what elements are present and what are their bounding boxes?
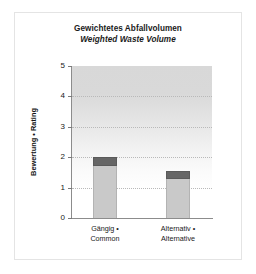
- x-tick-label-alternativ-alternative-line1: Alternativ •: [132, 224, 224, 234]
- x-tick-label-alternativ-alternative: Alternativ • Alternative: [132, 224, 224, 243]
- bar-alternativ-alternative[interactable]: [166, 171, 190, 218]
- x-tick-label-alternativ-alternative-line2: Alternative: [132, 234, 224, 244]
- y-tick-label-0: 0: [51, 214, 65, 222]
- y-tick-mark-1: [68, 188, 72, 189]
- gridline-3: [72, 127, 212, 128]
- bar-cap-alternativ-alternative: [166, 171, 190, 179]
- y-tick-label-3: 3: [51, 123, 65, 131]
- chart-subtitle: Weighted Waste Volume: [14, 34, 242, 45]
- bar-cap-gaengig-common: [93, 157, 117, 166]
- y-tick-mark-4: [68, 96, 72, 97]
- chart-title-block: Gewichtetes Abfallvolumen Weighted Waste…: [14, 23, 242, 45]
- y-tick-mark-5: [68, 66, 72, 67]
- bar-body-gaengig-common: [93, 157, 117, 218]
- y-axis-label: Bewertung • Rating: [28, 66, 40, 218]
- y-tick-mark-0: [68, 218, 72, 219]
- chart-figure: Gewichtetes Abfallvolumen Weighted Waste…: [0, 0, 256, 274]
- y-tick-label-1: 1: [51, 184, 65, 192]
- y-tick-mark-2: [68, 157, 72, 158]
- y-axis-line: [71, 66, 72, 219]
- y-tick-label-4: 4: [51, 92, 65, 100]
- y-tick-label-5: 5: [51, 62, 65, 70]
- x-axis-line: [71, 218, 213, 219]
- y-tick-mark-3: [68, 127, 72, 128]
- plot-area: [72, 66, 212, 218]
- chart-title: Gewichtetes Abfallvolumen: [14, 23, 242, 34]
- gridline-4: [72, 96, 212, 97]
- y-tick-label-2: 2: [51, 153, 65, 161]
- bar-gaengig-common[interactable]: [93, 157, 117, 218]
